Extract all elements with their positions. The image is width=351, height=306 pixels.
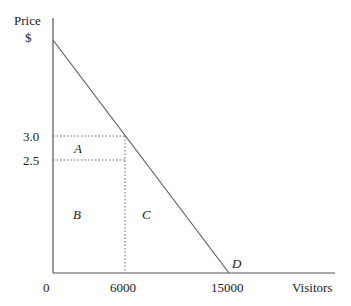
region-label-b: B bbox=[73, 207, 81, 222]
y-axis-label-price: Price bbox=[14, 13, 41, 28]
region-label-a: A bbox=[73, 141, 82, 156]
y-tick-3-0: 3.0 bbox=[23, 129, 39, 144]
origin-label: 0 bbox=[43, 280, 50, 295]
demand-line bbox=[53, 40, 229, 273]
demand-chart: Price $ 3.0 2.5 0 6000 15000 Visitors A … bbox=[0, 0, 351, 306]
region-label-d: D bbox=[231, 256, 242, 271]
region-label-c: C bbox=[142, 207, 151, 222]
y-axis-label-dollar: $ bbox=[25, 30, 32, 45]
x-tick-6000: 6000 bbox=[110, 280, 136, 295]
x-axis-label-visitors: Visitors bbox=[292, 280, 332, 295]
x-tick-15000: 15000 bbox=[211, 280, 244, 295]
y-tick-2-5: 2.5 bbox=[23, 153, 39, 168]
